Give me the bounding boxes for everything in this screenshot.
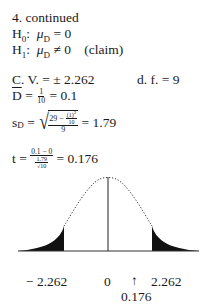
test-value-label: 0.176 [121, 289, 151, 305]
left-critical-label: − 2.262 [26, 274, 67, 290]
t-distribution-chart [0, 0, 215, 308]
right-critical-label: 2.262 [151, 274, 181, 290]
left-rejection-region [18, 226, 64, 251]
arrow-up-icon: ↑ [131, 273, 138, 289]
right-rejection-region [152, 226, 199, 251]
center-label: 0 [104, 274, 111, 290]
